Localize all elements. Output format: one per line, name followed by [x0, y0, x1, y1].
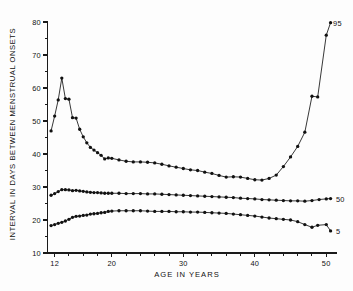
data-point [107, 210, 110, 213]
data-point [92, 191, 95, 194]
data-point [246, 197, 249, 200]
data-point [329, 21, 332, 24]
data-point [53, 114, 56, 117]
data-point [196, 210, 199, 213]
data-point [103, 211, 106, 214]
data-point [232, 196, 235, 199]
data-point [160, 210, 163, 213]
data-point [289, 218, 292, 221]
data-point [153, 192, 156, 195]
data-point [310, 226, 313, 229]
data-point [99, 191, 102, 194]
data-point [275, 199, 278, 202]
series-line-95 [51, 23, 331, 180]
data-point [189, 210, 192, 213]
data-point [78, 214, 81, 217]
data-point [67, 218, 70, 221]
data-point [124, 209, 127, 212]
data-point [117, 209, 120, 212]
data-point [103, 192, 106, 195]
data-point [225, 175, 228, 178]
data-point [96, 212, 99, 215]
data-point [325, 34, 328, 37]
data-point [175, 166, 178, 169]
data-point [153, 161, 156, 164]
data-point [316, 224, 319, 227]
data-point [303, 200, 306, 203]
data-point [317, 198, 320, 201]
data-point [99, 211, 102, 214]
data-point [89, 212, 92, 215]
data-point [139, 192, 142, 195]
data-point [57, 98, 60, 101]
data-point [246, 214, 249, 217]
data-point [60, 221, 63, 224]
data-point [57, 190, 60, 193]
data-point [117, 158, 120, 161]
data-point [67, 188, 70, 191]
data-point [146, 192, 149, 195]
data-point [253, 178, 256, 181]
data-point [146, 161, 149, 164]
data-point [225, 212, 228, 215]
data-point [210, 195, 213, 198]
x-tick-label: 50 [322, 259, 331, 268]
data-point [260, 215, 263, 218]
axis-ticks [43, 22, 326, 257]
data-point [71, 189, 74, 192]
data-point [303, 131, 306, 134]
data-point [64, 97, 67, 100]
data-point [196, 194, 199, 197]
data-point [82, 135, 85, 138]
data-point [189, 194, 192, 197]
data-point [267, 198, 270, 201]
data-point [182, 194, 185, 197]
data-point [89, 146, 92, 149]
data-point [96, 191, 99, 194]
axis-tick-labels: 10203040506070801220304050 [32, 18, 331, 268]
data-point [71, 216, 74, 219]
data-point [67, 98, 70, 101]
data-point [107, 156, 110, 159]
data-point [217, 211, 220, 214]
data-point [253, 197, 256, 200]
data-point [175, 210, 178, 213]
data-point [232, 175, 235, 178]
data-point [329, 197, 332, 200]
data-point [225, 196, 228, 199]
data-point [196, 169, 199, 172]
data-point [232, 212, 235, 215]
data-point [310, 199, 313, 202]
x-tick-label: 40 [250, 259, 259, 268]
data-point [167, 164, 170, 167]
y-tick-label: 70 [32, 51, 41, 60]
y-tick-label: 30 [32, 183, 41, 192]
data-point [132, 160, 135, 163]
chart-figure: 10203040506070801220304050 95505 AGE IN … [0, 0, 353, 291]
data-point [325, 223, 328, 226]
data-point [167, 210, 170, 213]
data-point [49, 194, 52, 197]
data-point [49, 129, 52, 132]
data-point [124, 192, 127, 195]
data-point [146, 209, 149, 212]
data-point [217, 195, 220, 198]
data-point [325, 197, 328, 200]
data-point [92, 212, 95, 215]
data-point [153, 210, 156, 213]
data-point [329, 229, 332, 232]
data-point [289, 155, 292, 158]
x-tick-label: 30 [179, 259, 188, 268]
x-tick-label: 12 [50, 259, 59, 268]
data-point [246, 177, 249, 180]
data-point [296, 145, 299, 148]
data-point [110, 209, 113, 212]
data-point [203, 171, 206, 174]
y-axis-title: INTERVAL IN DAYS BETWEEN MENSTRUAL ONSET… [8, 28, 17, 240]
data-point [85, 190, 88, 193]
y-tick-label: 40 [32, 150, 41, 159]
data-point [103, 157, 106, 160]
data-point [64, 219, 67, 222]
data-point [60, 76, 63, 79]
data-point [182, 167, 185, 170]
